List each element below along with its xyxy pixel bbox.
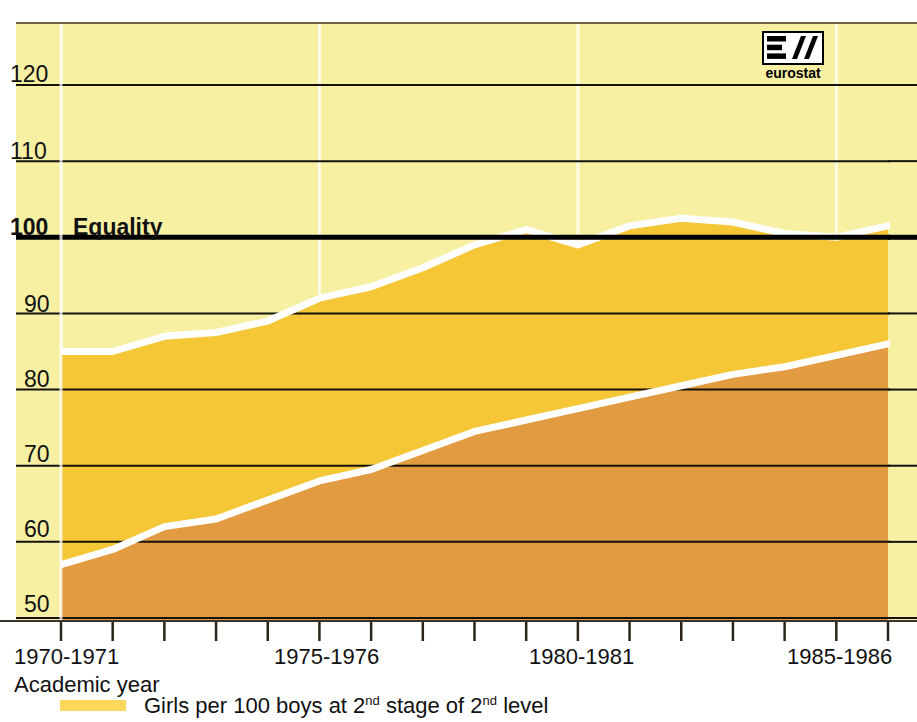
eurostat-logo-wordmark: eurostat — [762, 66, 824, 81]
legend: Girls per 100 boys at 2nd stage of 2nd l… — [60, 694, 548, 717]
eurostat-logo: eurostat — [762, 31, 824, 81]
x-tick-label-1980-1981: 1980-1981 — [529, 646, 634, 668]
y-tick-100: 100 — [10, 216, 68, 239]
y-tick-70: 70 — [24, 443, 82, 466]
y-tick-110: 110 — [10, 140, 68, 163]
legend-swatch-girls-series — [60, 700, 126, 711]
x-tick-label-1985-1986: 1985-1986 — [787, 646, 892, 668]
legend-label-girls-series: Girls per 100 boys at 2nd stage of 2nd l… — [144, 694, 548, 717]
y-tick-90: 90 — [24, 293, 82, 316]
plot-area — [0, 0, 917, 722]
y-tick-120: 120 — [10, 63, 68, 86]
x-tick-label-1975-1976: 1975-1976 — [274, 646, 379, 668]
equality-reference-label: Equality — [73, 216, 162, 239]
x-axis-title: Academic year — [14, 674, 160, 696]
y-tick-50: 50 — [24, 593, 82, 616]
y-tick-60: 60 — [24, 518, 82, 541]
chart-root: 120 110 100 90 80 70 60 50 Equality 1970… — [0, 0, 917, 722]
x-tick-label-1970-1971: 1970-1971 — [14, 646, 119, 668]
eurostat-logo-icon — [762, 31, 824, 65]
y-tick-80: 80 — [24, 368, 82, 391]
